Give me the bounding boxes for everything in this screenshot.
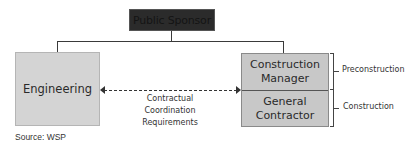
construction-tick <box>334 108 339 109</box>
dashed-relationship-line <box>104 90 237 91</box>
construction-manager-section: Construction Manager <box>242 54 328 90</box>
horizontal-connector-line <box>57 41 284 42</box>
relationship-label: Contractual Coordination Requirements <box>125 93 215 129</box>
general-contractor-section: General Contractor <box>242 90 328 127</box>
engineering-box: Engineering <box>15 52 100 126</box>
right-drop-line <box>283 41 284 53</box>
relationship-label-line1: Contractual <box>125 93 215 105</box>
construction-label: Construction <box>343 102 394 111</box>
phase-bracket-divider <box>330 89 334 90</box>
engineering-label: Engineering <box>23 82 92 96</box>
arrow-right-icon <box>236 86 241 94</box>
phase-bracket <box>330 53 334 127</box>
left-drop-line <box>57 41 58 52</box>
public-sponsor-box: Public Sponsor <box>129 9 215 31</box>
public-sponsor-label: Public Sponsor <box>133 14 211 27</box>
preconstruction-label: Preconstruction <box>342 65 404 74</box>
gc-label-line2: Contractor <box>256 109 315 123</box>
cm-gc-box: Construction Manager General Contractor <box>241 53 329 127</box>
gc-label-line1: General <box>256 95 315 109</box>
relationship-label-line2: Coordination <box>125 105 215 117</box>
relationship-label-line3: Requirements <box>125 117 215 129</box>
source-caption: Source: WSP <box>15 132 66 142</box>
cm-label-line1: Construction <box>250 58 320 72</box>
preconstruction-tick <box>334 71 339 72</box>
sponsor-stem-line <box>171 31 172 41</box>
cm-label-line2: Manager <box>250 72 320 86</box>
